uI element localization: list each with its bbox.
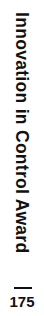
divider-rule [14,287,32,289]
running-title-container: Innovation in Control Award [12,12,32,268]
running-title: Innovation in Control Award [12,12,32,253]
page-number: 175 [0,293,44,310]
